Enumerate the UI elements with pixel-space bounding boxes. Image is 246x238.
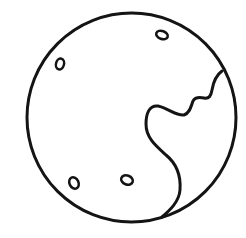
moon-icon [0,0,246,238]
moon-body-outline [27,13,236,222]
moon-illustration: Moon icon [0,0,246,238]
